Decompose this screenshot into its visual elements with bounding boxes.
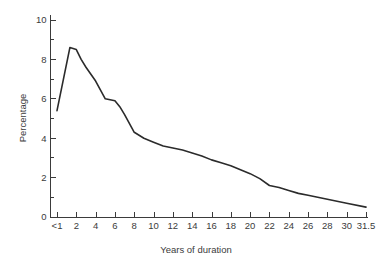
x-tick-label: 16 [206,220,217,231]
x-tick-label: 30 [341,220,352,231]
y-tick-label: 10 [36,14,47,25]
x-tick-label: 20 [245,220,256,231]
y-tick-label: 8 [41,54,46,65]
x-tick-label: <1 [52,220,63,231]
x-tick-label: 4 [93,220,98,231]
x-tick-label: 10 [148,220,159,231]
x-tick-label: 28 [322,220,333,231]
axis-ticks [51,20,367,217]
x-tick-label: 22 [264,220,275,231]
y-axis-title: Percentage [17,94,28,143]
data-series-line [57,48,366,208]
axes [50,15,368,218]
chart-figure: 0246810<12468101214161820222426283031.5 … [0,0,392,268]
x-tick-label: 18 [226,220,237,231]
x-tick-label: 26 [303,220,314,231]
x-tick-label: 2 [74,220,79,231]
x-tick-label: 8 [132,220,137,231]
x-tick-label: 6 [112,220,117,231]
x-tick-label: 24 [283,220,294,231]
x-tick-label: 14 [187,220,198,231]
x-tick-label: 12 [168,220,179,231]
y-tick-label: 0 [41,211,46,222]
line-chart: 0246810<12468101214161820222426283031.5 … [0,0,392,268]
x-axis-title: Years of duration [160,244,231,255]
y-tick-label: 6 [41,93,46,104]
y-tick-label: 2 [41,172,46,183]
y-tick-label: 4 [41,133,46,144]
x-tick-label: 31.5 [357,220,376,231]
